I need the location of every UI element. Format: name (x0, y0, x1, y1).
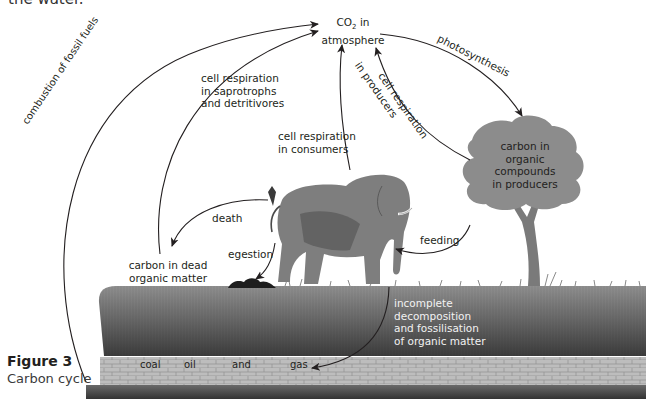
node-producers: carbon in organic compounds in producers (489, 140, 561, 190)
grass (285, 272, 640, 286)
atmosphere-text: atmosphere (318, 34, 388, 47)
figure-title: Carbon cycle (7, 370, 92, 387)
label-line: in saprotrophs (201, 85, 284, 98)
node-co2-atmosphere: CO2 in atmosphere (318, 16, 388, 46)
fossil-gas: gas (290, 359, 308, 370)
label-death: death (212, 212, 242, 225)
dung-pile (228, 278, 276, 288)
figure-number: Figure 3 (7, 352, 92, 370)
elephant (268, 175, 412, 284)
dead-matter-line: carbon in dead (128, 259, 208, 272)
label-line: and detritivores (201, 97, 284, 110)
ground-strata (86, 286, 646, 399)
label-line: of organic matter (394, 335, 485, 348)
bedrock-layer (86, 385, 646, 399)
label-resp-consumers: cell respiration in consumers (278, 130, 356, 155)
label-line: and fossilisation (394, 322, 485, 335)
dead-matter-line: organic matter (128, 272, 208, 285)
label-line: cell respiration (201, 72, 284, 85)
producers-line: in producers (489, 178, 561, 191)
label-resp-saprotrophs: cell respiration in saprotrophs and detr… (201, 72, 284, 110)
producers-line: organic (489, 153, 561, 166)
co2-in-text: in (357, 16, 370, 28)
carbon-cycle-diagram: the water. (0, 0, 658, 401)
fossil-and: and (232, 359, 251, 370)
node-dead-organic-matter: carbon in dead organic matter (128, 259, 208, 284)
label-line: incomplete (394, 297, 485, 310)
label-line: in consumers (278, 143, 356, 156)
co2-text: CO (337, 16, 353, 28)
producers-line: carbon in (489, 140, 561, 153)
label-feeding: feeding (420, 234, 460, 247)
label-fossilisation: incomplete decomposition and fossilisati… (394, 297, 485, 347)
fossil-fuel-layer (100, 357, 646, 385)
diagram-graphics (0, 0, 658, 401)
figure-caption: Figure 3 Carbon cycle (7, 352, 92, 387)
label-line: cell respiration (278, 130, 356, 143)
fossil-oil: oil (184, 359, 196, 370)
fossil-coal: coal (140, 359, 161, 370)
producers-line: compounds (489, 165, 561, 178)
label-line: decomposition (394, 310, 485, 323)
label-egestion: egestion (228, 248, 273, 261)
